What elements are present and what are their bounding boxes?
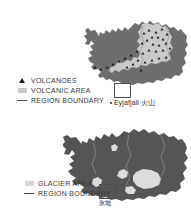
- legend-label-volcanic-area: VOLCANIC AREA: [31, 86, 91, 95]
- eyjafjall-callout-box: [114, 83, 131, 98]
- iceland-maps-figure: Eyjafjall 火山 VOLCANOES VOLCANIC AREA REG…: [0, 0, 191, 217]
- legend-item-glacier-area: GLACIER AREA: [24, 179, 111, 188]
- line-swatch-icon: [17, 97, 27, 105]
- volcano-map-panel: Eyjafjall 火山 VOLCANOES VOLCANIC AREA REG…: [0, 0, 191, 112]
- legend-item-volcanic-area: VOLCANIC AREA: [17, 86, 104, 95]
- area-swatch-icon: [24, 180, 34, 188]
- area-swatch-icon: [17, 87, 27, 95]
- triangle-icon: [17, 77, 27, 85]
- eyjafjall-annotation: Eyjafjall 火山: [110, 99, 155, 107]
- point-icon: [110, 102, 112, 104]
- glacier-map-graphic: [63, 124, 191, 212]
- legend-item-region-boundary-glacier: REGION BOUNDARY: [24, 189, 111, 198]
- volcano-legend: VOLCANOES VOLCANIC AREA REGION BOUNDARY: [17, 76, 104, 105]
- glacier-annotation-label: 氷地: [99, 200, 111, 206]
- glacier-annotation: 氷地: [99, 199, 111, 207]
- legend-label-region-boundary-volcano: REGION BOUNDARY: [31, 96, 104, 105]
- legend-label-region-boundary-glacier: REGION BOUNDARY: [38, 189, 111, 198]
- legend-label-glacier-area: GLACIER AREA: [38, 179, 92, 188]
- legend-item-volcanoes: VOLCANOES: [17, 76, 104, 85]
- line-swatch-icon: [24, 190, 34, 198]
- glacier-legend: GLACIER AREA REGION BOUNDARY: [24, 179, 111, 198]
- glacier-map-panel: 氷地 GLACIER AREA REGION BOUNDARY: [0, 108, 191, 217]
- legend-label-volcanoes: VOLCANOES: [31, 76, 77, 85]
- eyjafjall-annotation-label: Eyjafjall 火山: [114, 99, 155, 107]
- legend-item-region-boundary-volcano: REGION BOUNDARY: [17, 96, 104, 105]
